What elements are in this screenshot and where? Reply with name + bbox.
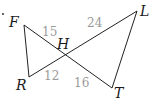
segment-FR [24,25,29,77]
label-F: F [8,14,20,30]
length-HL: 24 [87,16,103,30]
label-T: T [114,85,125,99]
label-R: R [15,77,27,93]
length-RH: 12 [44,69,59,83]
length-FH: 15 [42,25,57,39]
segment-LT [112,11,137,88]
length-HT: 16 [74,76,89,90]
geometry-diagram: F L H R T 15 24 12 16 [0,0,159,99]
label-H: H [56,36,70,52]
label-L: L [139,3,149,19]
bullet-dot [2,13,4,15]
